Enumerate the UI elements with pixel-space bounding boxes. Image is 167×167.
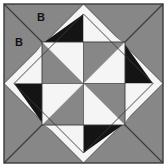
quilt-block-svg: B B bbox=[0, 0, 167, 167]
region-label-b-upper: B bbox=[37, 11, 45, 23]
quilt-block-figure: B B bbox=[0, 0, 167, 167]
region-label-b-left: B bbox=[15, 36, 23, 48]
